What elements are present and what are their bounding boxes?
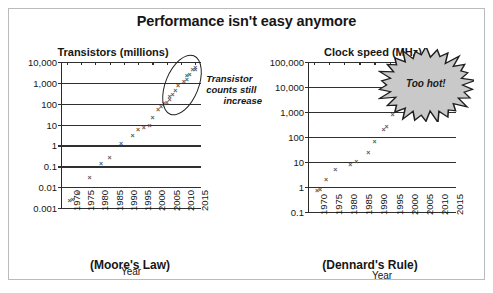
gridline [61,166,201,167]
data-point: × [315,188,320,193]
x-tick-label: 2015 [454,194,465,215]
y-tick-mark [58,104,62,105]
data-point: × [381,127,386,132]
gridline [308,162,456,163]
x-tick-mark [329,62,330,65]
x-tick-label: 1990 [128,190,139,211]
y-tick-mark [305,87,309,88]
x-tick-mark [152,62,153,65]
data-point: × [150,115,155,120]
x-tick-label: 2005 [171,190,182,211]
x-tick-label: 2015 [199,190,210,211]
y-tick-mark [305,212,309,213]
x-tick-label: 1985 [363,194,374,215]
y-tick-label: 0.01 [39,182,58,193]
y-tick-label: 10,000 [275,82,304,93]
too-hot-burst: Too hot! [378,48,474,122]
x-tick-label: 1975 [333,194,344,215]
x-tick-label: 1980 [99,190,110,211]
x-tick-label: 2000 [409,194,420,215]
y-tick-mark [305,162,309,163]
x-tick-label: 1985 [114,190,125,211]
x-tick-label: 1980 [348,194,359,215]
x-tick-mark [95,62,96,65]
data-point: × [366,150,371,155]
y-tick-mark [58,62,62,63]
data-point: × [136,127,141,132]
x-tick-mark [167,62,168,65]
plot-area-transistors: 10,0001,0001001010.10.010.00119701975198… [61,62,201,208]
data-point: × [107,155,112,160]
gridline [61,125,201,126]
x-tick-mark [344,62,345,65]
x-tick-mark [138,62,139,65]
y-tick-mark [58,145,62,146]
y-tick-mark [305,62,309,63]
y-tick-label: 10,000 [28,57,57,68]
y-tick-mark [305,187,309,188]
x-tick-label: 2005 [424,194,435,215]
y-tick-mark [305,112,309,113]
page-title: Performance isn't easy anymore [0,13,493,29]
x-tick-label: 2010 [185,190,196,211]
x-tick-label: 1990 [378,194,389,215]
y-tick-label: 1 [299,182,304,193]
gridline [61,187,201,188]
x-tick-label: 2010 [439,194,450,215]
y-tick-label: 0.1 [44,161,57,172]
y-tick-mark [58,125,62,126]
x-tick-label: 1995 [394,194,405,215]
x-tick-label: 1970 [71,190,82,211]
x-tick-mark [67,62,68,65]
x-tick-label: 1995 [142,190,153,211]
gridline [308,137,456,138]
panel-caption-moores-law: (Moore's Law) [10,258,250,272]
data-point: × [384,124,389,129]
gridline [61,145,201,146]
data-point: × [87,175,92,180]
y-tick-label: 1,000 [33,77,57,88]
y-tick-mark [58,83,62,84]
y-tick-label: 10 [293,157,304,168]
plot-area-clock-speed: 100,00010,0001,0001001010.11970197519801… [308,62,456,212]
data-point: × [156,107,161,112]
transistor-trend-ellipse-icon [155,49,210,121]
panel-dennards-rule: Clock speed (MHz) 100,00010,0001,0001001… [250,36,490,276]
data-point: × [324,177,329,182]
y-tick-label: 100 [41,98,57,109]
y-tick-mark [58,208,62,209]
data-point: × [372,139,377,144]
x-tick-label: 1975 [85,190,96,211]
y-tick-label: 10 [46,119,57,130]
y-tick-label: 1,000 [280,107,304,118]
gridline [308,187,456,188]
x-tick-label: 1970 [318,194,329,215]
figure-root: Performance isn't easy anymore Transisto… [0,0,493,293]
y-tick-label: 0.1 [291,207,304,218]
x-tick-mark [110,62,111,65]
x-tick-mark [359,62,360,65]
y-tick-label: 0.001 [33,203,57,214]
y-tick-label: 1 [52,140,57,151]
panel-moores-law: Transistors (millions) 10,0001,000100101… [10,36,250,276]
data-point: × [333,167,338,172]
y-tick-label: 100 [288,132,304,143]
x-tick-mark [81,62,82,65]
x-tick-mark [374,62,375,65]
too-hot-label: Too hot! [378,78,474,89]
y-tick-mark [305,137,309,138]
y-tick-mark [58,166,62,167]
y-tick-label: 100,000 [270,57,304,68]
data-point: × [130,133,135,138]
x-tick-mark [124,62,125,65]
x-tick-mark [314,62,315,65]
x-tick-label: 2000 [156,190,167,211]
y-tick-mark [58,187,62,188]
panel-caption-dennards-rule: (Dennard's Rule) [250,258,490,272]
